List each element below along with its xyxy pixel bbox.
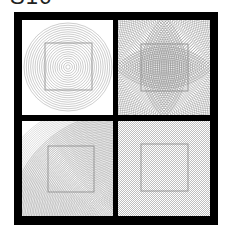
panel-crosshatch-moire [118,121,210,216]
figure-label: S16 [10,0,52,8]
panel-edge-circles-moire [118,20,210,115]
panel-concentric-circles [22,20,113,115]
panel-offset-circles-moire [22,121,113,216]
